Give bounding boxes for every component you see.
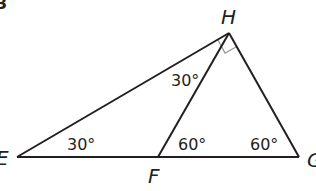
vertex-label-E: E [0,146,9,170]
angle-label-G: 60° [250,135,278,154]
vertex-label-G: G [307,148,316,172]
vertex-label-F: F [148,164,160,188]
triangle-diagram: 3 H E F G 30° 30° 60° 60° [0,0,316,191]
angle-label-HFG: 60° [178,135,206,154]
problem-number-fragment: 3 [0,0,7,13]
vertex-label-H: H [221,5,236,29]
angle-label-E: 30° [67,135,95,154]
angle-label-EHF: 30° [171,71,199,90]
